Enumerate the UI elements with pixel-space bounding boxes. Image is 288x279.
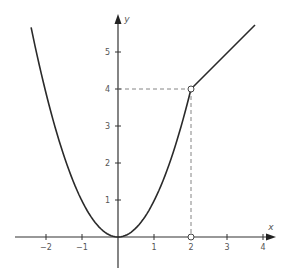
x-tick-labels: −2 −1 1 2 3 4 [40, 243, 265, 252]
y-tick-label: 2 [105, 159, 110, 168]
dashed-guides [118, 89, 191, 237]
y-tick-label: 5 [105, 48, 110, 57]
point-2-4-marker [188, 86, 194, 92]
y-tick-label: 4 [105, 85, 110, 94]
axes [15, 14, 276, 268]
linear-curve [191, 25, 255, 89]
x-axis-label: x [267, 222, 274, 232]
y-tick-label: 1 [105, 196, 110, 205]
x-axis-arrow-icon [266, 234, 276, 241]
x-tick-label: −1 [76, 243, 88, 252]
y-axis-label: y [123, 14, 130, 24]
y-tick-label: 3 [105, 122, 110, 131]
parabola-curve [31, 27, 191, 237]
x-tick-label: 2 [188, 243, 193, 252]
x-tick-label: 3 [224, 243, 229, 252]
x-tick-label: −2 [40, 243, 52, 252]
point-2-0-marker [188, 234, 194, 240]
x-tick-label: 4 [260, 243, 265, 252]
y-axis-arrow-icon [115, 14, 122, 24]
y-tick-labels: 1 2 3 4 5 [105, 48, 110, 205]
x-tick-label: 1 [151, 243, 156, 252]
function-graph: −2 −1 1 2 3 4 1 2 3 4 5 x y [0, 0, 288, 279]
